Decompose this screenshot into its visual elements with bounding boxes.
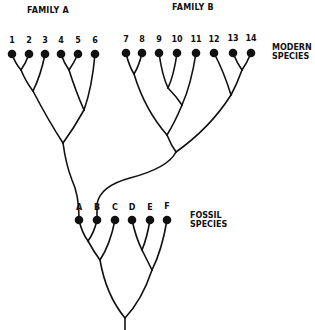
phylogenetic-tree	[0, 0, 315, 330]
species-label-9: 9	[156, 35, 162, 44]
fossil-species-nodes	[75, 216, 172, 225]
fossil-label-a: A	[76, 203, 82, 212]
modern-species-label-line1: MODERN	[272, 43, 312, 52]
species-label-10: 10	[171, 35, 182, 44]
modern-species-nodes	[8, 49, 256, 59]
family-b-label: FAMILY B	[172, 3, 214, 12]
species-label-8: 8	[139, 35, 145, 44]
modern-species-label-line2: SPECIES	[272, 52, 312, 61]
fossil-species-label-line2: SPECIES	[190, 220, 227, 229]
fossil-label-e: E	[147, 203, 152, 212]
fossil-label-b: B	[94, 203, 100, 212]
fossil-species-label: FOSSIL SPECIES	[190, 211, 227, 229]
species-label-6: 6	[92, 36, 98, 45]
fossil-label-d: D	[129, 203, 136, 212]
species-label-11: 11	[190, 35, 201, 44]
fossil-label-f: F	[164, 202, 169, 211]
species-label-3: 3	[42, 36, 48, 45]
fossil-label-c: C	[112, 203, 118, 212]
fossil-branches	[79, 220, 167, 330]
modern-species-label: MODERN SPECIES	[272, 43, 312, 61]
species-label-13: 13	[227, 34, 238, 43]
species-label-14: 14	[245, 34, 256, 43]
fossil-species-label-line1: FOSSIL	[190, 211, 227, 220]
species-label-4: 4	[58, 36, 64, 45]
family-a-branches	[12, 54, 95, 218]
species-label-7: 7	[123, 35, 129, 44]
species-label-2: 2	[26, 36, 32, 45]
species-label-12: 12	[208, 35, 219, 44]
species-label-5: 5	[75, 36, 81, 45]
family-b-branches	[97, 53, 251, 218]
species-label-1: 1	[9, 36, 15, 45]
family-a-label: FAMILY A	[27, 6, 69, 15]
